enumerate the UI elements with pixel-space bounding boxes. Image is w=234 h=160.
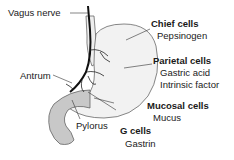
label-gastric-acid: Gastric acid xyxy=(160,67,210,78)
antrum-duodenum xyxy=(49,90,90,145)
label-mucosal-cells: Mucosal cells xyxy=(147,100,209,111)
label-chief-cells: Chief cells xyxy=(151,18,199,29)
label-mucus: Mucus xyxy=(153,112,181,123)
label-pepsinogen: Pepsinogen xyxy=(157,30,207,41)
label-antrum: Antrum xyxy=(20,70,51,81)
label-g-cells: G cells xyxy=(120,125,151,136)
label-parietal-cells: Parietal cells xyxy=(153,55,211,66)
label-pylorus: Pylorus xyxy=(76,120,108,131)
label-intrinsic-factor: Intrinsic factor xyxy=(160,79,219,90)
label-vagus-nerve: Vagus nerve xyxy=(8,7,61,18)
label-gastrin: Gastrin xyxy=(125,138,156,149)
